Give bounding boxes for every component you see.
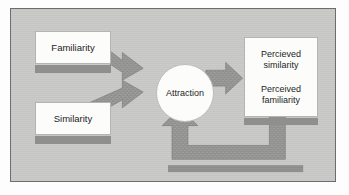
- diagram-figure: Familiarity Similarity Attraction Percie…: [0, 0, 349, 195]
- attraction-label: Attraction: [166, 88, 204, 98]
- node-familiarity[interactable]: Familiarity: [35, 31, 111, 64]
- outcome-line-1: Percieved: [261, 49, 301, 60]
- diagram-panel: Familiarity Similarity Attraction Percie…: [10, 8, 336, 182]
- outcome-perceived-familiarity: Perceived familiarity: [261, 84, 301, 106]
- familiarity-box-shadow: [35, 65, 111, 73]
- familiarity-label: Familiarity: [51, 42, 94, 53]
- similarity-label: Similarity: [54, 113, 93, 124]
- outcome-line-3: Perceived: [261, 84, 301, 95]
- node-attraction[interactable]: Attraction: [156, 64, 214, 122]
- outcome-line-4: familiarity: [261, 95, 301, 106]
- node-similarity[interactable]: Similarity: [35, 102, 111, 135]
- node-perceived-outcomes[interactable]: Percieved similarity Perceived familiari…: [244, 37, 318, 117]
- outcome-line-2: similarity: [261, 60, 301, 71]
- outcomes-box-shadow: [244, 118, 318, 125]
- similarity-box-shadow: [35, 136, 111, 144]
- outcome-perceived-similarity: Percieved similarity: [261, 49, 301, 71]
